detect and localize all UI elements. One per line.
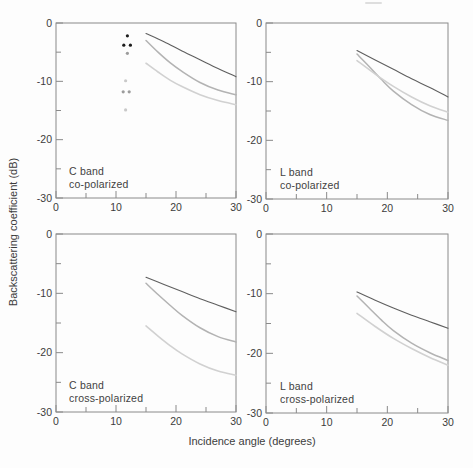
subplot-l-band-cross-polarized: 01020300-10-20-30 L band cross-polarized [236, 212, 473, 434]
subplot-c-band-cross-polarized: 01020300-10-20-30 C band cross-polarized [0, 212, 241, 434]
plot-area-l-band-co-polarized: 01020300-10-20-30 [236, 0, 473, 212]
y-tick-label: -10 [37, 287, 52, 299]
panel-label: L band co-polarized [280, 166, 340, 192]
y-tick-label: -20 [37, 346, 52, 358]
x-tick-label: 0 [53, 415, 59, 427]
x-tick-label: 20 [170, 415, 182, 427]
dark-solid-curve [146, 277, 236, 311]
subplot-c-band-co-polarized: 01020300-10-20-30 C band co-polarized [0, 0, 241, 212]
tick-labels: 01020300-10-20-30 [247, 17, 454, 215]
panel-band-label: C band [69, 379, 143, 392]
y-tick-label: -10 [247, 75, 262, 87]
y-tick-label: -30 [247, 407, 262, 419]
x-tick-label: 0 [263, 416, 269, 428]
x-axis-label: Incidence angle (degrees) [152, 435, 352, 447]
y-tick-label: -30 [37, 406, 52, 418]
data-point [126, 52, 129, 55]
medium-gray-curve [357, 54, 448, 120]
subplot-l-band-co-polarized: 01020300-10-20-30 L band co-polarized [236, 0, 473, 212]
panel-polarization-label: cross-polarized [69, 392, 143, 405]
light-gray-curve [357, 313, 448, 365]
tick-labels: 01020300-10-20-30 [37, 17, 242, 214]
y-tick-label: 0 [256, 17, 262, 29]
dark-solid-curve [146, 34, 236, 77]
panel-band-label: L band [280, 166, 340, 179]
plot-area-l-band-cross-polarized: 01020300-10-20-30 [236, 212, 473, 434]
x-tick-label: 30 [442, 416, 454, 428]
y-tick-label: -20 [37, 133, 52, 145]
x-tick-label: 20 [381, 416, 393, 428]
medium-gray-curve [146, 41, 236, 95]
panel-polarization-label: co-polarized [69, 178, 129, 191]
y-tick-label: -20 [247, 347, 262, 359]
data-point [126, 34, 129, 37]
panel-polarization-label: cross-polarized [280, 393, 354, 406]
medium-gray-curve [357, 296, 448, 360]
panel-band-label: L band [280, 380, 354, 393]
light-gray-curve [146, 63, 236, 104]
light-gray-curve [146, 326, 236, 375]
dark-solid-curve [357, 51, 448, 97]
data-point [128, 90, 131, 93]
panel-band-label: C band [69, 165, 129, 178]
y-tick-label: -30 [37, 192, 52, 204]
medium-gray-curve [146, 283, 236, 342]
y-tick-label: -20 [247, 134, 262, 146]
data-point [124, 108, 127, 111]
y-tick-label: -30 [247, 193, 262, 205]
x-tick-label: 10 [321, 416, 333, 428]
y-tick-label: 0 [46, 228, 52, 240]
data-point [122, 90, 125, 93]
y-tick-label: -10 [37, 75, 52, 87]
panel-polarization-label: co-polarized [280, 179, 340, 192]
panel-label: C band cross-polarized [69, 379, 143, 405]
data-point [129, 44, 132, 47]
y-tick-label: 0 [256, 228, 262, 240]
panel-label: L band cross-polarized [280, 380, 354, 406]
figure-backscattering-vs-incidence: Backscattering coefficient (dB) Incidenc… [0, 0, 473, 468]
y-tick-label: 0 [46, 17, 52, 29]
data-point [122, 44, 125, 47]
y-tick-label: -10 [247, 287, 262, 299]
data-point [124, 79, 127, 82]
x-tick-label: 10 [110, 415, 122, 427]
panel-label: C band co-polarized [69, 165, 129, 191]
